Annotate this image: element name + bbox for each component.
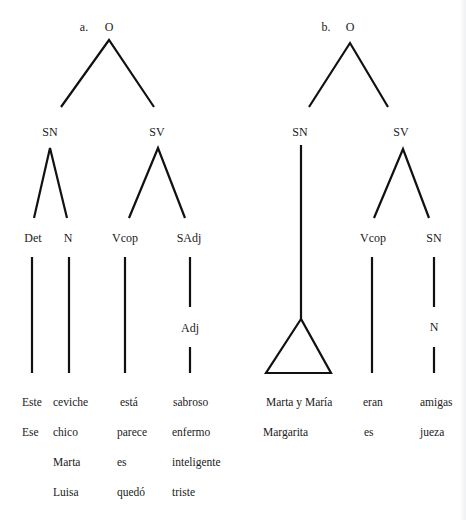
tree-a-n-label: N <box>64 231 73 245</box>
tree-a-adj-word: enfermo <box>172 425 210 439</box>
tree-b-sv-label: SV <box>393 125 408 139</box>
tree-b-vcop-label: Vcop <box>360 231 386 245</box>
tree-a-n-word: Luisa <box>53 485 79 499</box>
tree-b-marker: b. <box>322 20 331 34</box>
tree-a-adj-word: triste <box>172 485 195 499</box>
tree-a-sv-label: SV <box>149 125 164 139</box>
tree-a-adj-word: sabroso <box>173 395 208 409</box>
tree-b-n-label: N <box>430 320 439 334</box>
tree-b-vcop-word: es <box>364 425 374 439</box>
tree-b-n-word: amigas <box>420 395 453 409</box>
tree-a-n-word: chico <box>53 425 78 439</box>
tree-a-vcop-word: es <box>117 455 127 469</box>
tree-b-sn-word: Margarita <box>263 425 308 439</box>
tree-a-n-word: Marta <box>53 455 80 469</box>
tree-b-sn-triangle <box>266 319 331 373</box>
tree-b-sn2-label: SN <box>426 231 441 245</box>
tree-a-vcop-word: está <box>120 395 138 409</box>
tree-a-root-branch <box>61 40 154 107</box>
tree-a-sn-branch <box>34 148 67 218</box>
tree-a-adj-label: Adj <box>181 321 199 335</box>
tree-a-sadj-label: SAdj <box>177 231 202 245</box>
tree-b-root-branch <box>309 43 388 107</box>
tree-a-sv-branch <box>129 148 185 218</box>
tree-a-vcop-word: quedó <box>117 485 145 499</box>
tree-a-root-label: O <box>105 20 114 34</box>
tree-b-sn-word: Marta y María <box>266 395 332 409</box>
page-edge-shadow <box>460 0 466 520</box>
tree-branches <box>0 0 466 520</box>
tree-a-marker: a. <box>80 20 88 34</box>
tree-a-n-word: ceviche <box>53 395 88 409</box>
tree-a-vcop-word: parece <box>117 425 147 439</box>
tree-a-det-word: Ese <box>22 425 39 439</box>
tree-a-adj-word: inteligente <box>172 455 221 469</box>
tree-a-sn-label: SN <box>42 125 57 139</box>
tree-b-vcop-word: eran <box>363 395 383 409</box>
tree-b-root-label: O <box>346 20 355 34</box>
tree-a-det-label: Det <box>24 231 41 245</box>
tree-b-sn-label: SN <box>292 125 307 139</box>
tree-b-sv-branch <box>374 149 429 218</box>
tree-a-det-word: Este <box>22 395 42 409</box>
tree-a-vcop-label: Vcop <box>112 231 138 245</box>
tree-b-n-word: jueza <box>420 425 444 439</box>
